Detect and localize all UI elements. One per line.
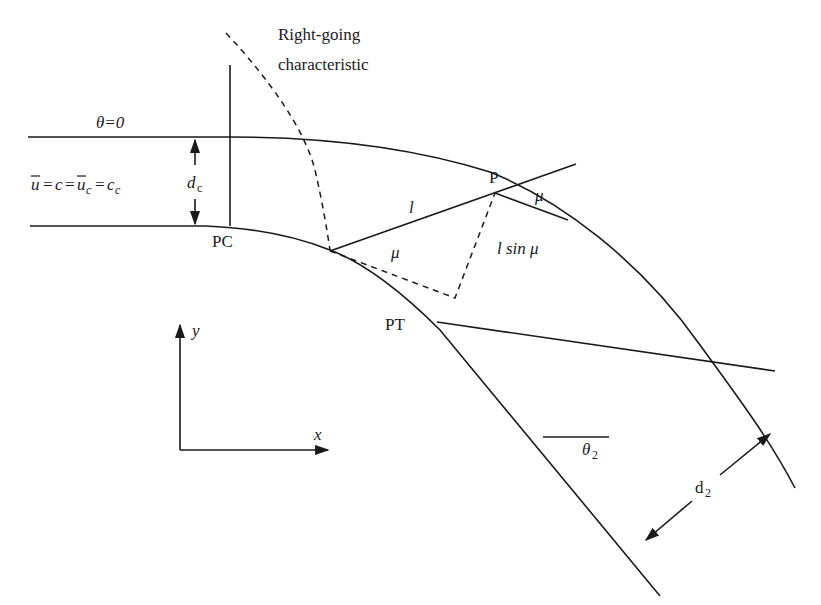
x-axis-label: x <box>313 425 322 444</box>
channel-bend-diagram: Right-going characteristic θ=0 u = c = u… <box>0 0 821 605</box>
d2-arrow-upper <box>720 434 770 475</box>
svg-text:2: 2 <box>705 486 711 500</box>
svg-text:c: c <box>107 175 115 194</box>
svg-text:θ: θ <box>582 440 590 459</box>
characteristic-label-line2: characteristic <box>278 55 369 74</box>
svg-text:=: = <box>43 175 53 194</box>
mu-upper-label: μ <box>534 186 544 205</box>
flow-condition-label: u = c = u c = c c <box>31 175 121 197</box>
theta2-label: θ 2 <box>582 440 598 462</box>
svg-text:=: = <box>65 175 75 194</box>
l-sin-mu-label: l sin μ <box>497 239 539 258</box>
line-l <box>330 164 576 251</box>
svg-text:=: = <box>95 175 105 194</box>
svg-text:c: c <box>55 175 63 194</box>
flow-u: u <box>31 175 40 194</box>
outer-wall <box>28 137 795 488</box>
svg-text:c: c <box>86 183 92 197</box>
pt-label: PT <box>385 315 405 334</box>
y-axis-label: y <box>190 321 200 340</box>
svg-text:2: 2 <box>592 448 598 462</box>
svg-text:u: u <box>77 175 86 194</box>
theta-zero-label: θ=0 <box>96 113 125 132</box>
svg-text:c: c <box>115 183 121 197</box>
characteristic-label-line1: Right-going <box>278 25 361 44</box>
length-l-label: l <box>409 198 414 217</box>
mu-lower-label: μ <box>390 243 400 262</box>
d2-arrow-lower <box>646 501 692 540</box>
svg-text:c: c <box>197 181 202 195</box>
pc-label: PC <box>212 232 233 251</box>
pt-cross-line <box>437 322 775 371</box>
svg-text:d: d <box>187 173 196 192</box>
d2-label: d 2 <box>695 478 711 500</box>
critical-depth-label: d c <box>187 173 202 195</box>
svg-text:d: d <box>695 478 704 497</box>
inner-wall <box>30 226 660 596</box>
p-label: P <box>489 168 498 187</box>
